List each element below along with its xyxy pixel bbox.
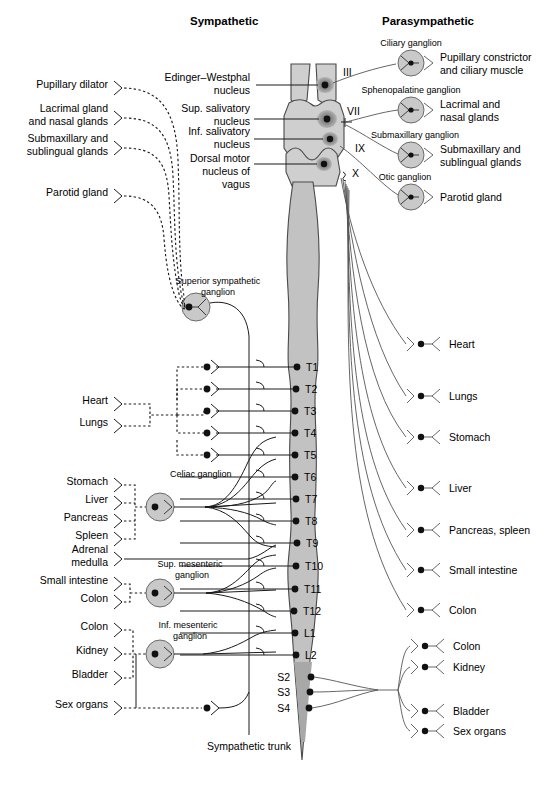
fork-sym-colon-lower	[114, 623, 122, 637]
label-edinger-westphal-2: nucleus	[214, 84, 250, 96]
dashed-infmes-colon	[124, 630, 133, 654]
label-t4: T4	[304, 427, 316, 439]
vagal-smallintestine-pre-fork	[407, 563, 414, 577]
fork-sym-colon-upper	[114, 595, 122, 609]
label-inf-mesenteric-1: Inf. mesenteric	[158, 620, 218, 630]
label-sym-submaxillary-2: sublingual glands	[27, 145, 108, 157]
celiac-ganglion-group: Stomach Liver Pancreas Spleen Celiac gan…	[64, 437, 276, 547]
adrenal-direct-fiber	[124, 545, 276, 559]
label-sympathetic-trunk: Sympathetic trunk	[207, 740, 292, 752]
sacral-band-top	[294, 662, 312, 672]
label-sym-colon-lower: Colon	[81, 620, 109, 632]
superior-sympathetic-ganglion-dot	[186, 304, 193, 311]
dashed-heart-bus	[124, 404, 177, 415]
vagal-lungs-pre-fork	[407, 389, 414, 403]
trunk-hook-t1	[256, 360, 264, 367]
trunk-hook-l2	[256, 648, 264, 655]
label-adrenal-2: medulla	[71, 556, 108, 568]
vagal-colon-post-fork	[432, 603, 440, 617]
label-submaxillary-ganglion: Submaxillary ganglion	[371, 130, 459, 140]
label-submaxillary-target-2: sublingual glands	[440, 156, 521, 168]
sphenopalatine-ganglion-dot	[408, 107, 413, 112]
label-inf-mesenteric-2: ganglion	[173, 631, 207, 641]
sacral-nerve-s4	[312, 690, 378, 708]
dashed-bus-to-t3	[177, 411, 204, 415]
dorsal-motor-vagus-dot	[321, 161, 327, 167]
diagram-canvas: Sympathetic Parasympathetic Ed	[0, 0, 548, 792]
vagal-target-heart: Heart	[407, 337, 475, 351]
sacral-dot-s4	[306, 705, 313, 712]
parasympathetic-vagal-targets-group: Heart Lungs Stomach Liver	[407, 337, 530, 617]
vagus-fiber-lungs	[343, 180, 406, 396]
dashed-bus-to-t4	[177, 415, 204, 433]
label-cn10: X	[352, 167, 359, 179]
submaxillary-ganglion-dot	[408, 152, 413, 157]
fork-sym-spleen	[114, 532, 122, 546]
vagal-liver-pre-fork	[407, 481, 414, 495]
sacral-target-sex-organs: Sex organs	[411, 724, 506, 738]
sym-dot-t2	[204, 386, 211, 393]
segment-dot-t12	[291, 608, 298, 615]
vagal-target-lungs: Lungs	[407, 389, 478, 403]
vagus-nerve-fibers	[341, 178, 406, 610]
sacral-sexorgans-dot	[422, 728, 428, 734]
label-sym-heart: Heart	[82, 394, 108, 406]
segment-dot-t11	[292, 586, 299, 593]
label-sym-small-intestine: Small intestine	[40, 574, 108, 586]
label-dorsal-motor-1: Dorsal motor	[190, 152, 251, 164]
sacral-nerve-s3	[313, 690, 378, 692]
segment-dot-t5	[292, 452, 299, 459]
label-vagal-colon: Colon	[449, 604, 477, 616]
label-sym-pupillary-dilator: Pupillary dilator	[36, 78, 108, 90]
sym-dot-t4	[204, 430, 211, 437]
label-t3: T3	[304, 405, 316, 417]
sym-dot-t1	[204, 364, 211, 371]
label-t5: T5	[304, 449, 316, 461]
sex-organs-dot	[204, 705, 211, 712]
label-sym-liver: Liver	[85, 493, 108, 505]
fork-lacrimal	[114, 111, 122, 125]
vagal-target-colon: Colon	[407, 603, 477, 617]
superior-ganglion-to-trunk	[210, 302, 249, 336]
sacral-target-bladder: Bladder	[411, 704, 490, 718]
label-sacral-colon: Colon	[453, 640, 481, 652]
label-sup-salivatory-1: Sup. salivatory	[181, 102, 251, 114]
vagal-stomach-dot	[418, 434, 424, 440]
label-otic-target-1: Parotid gland	[440, 191, 502, 203]
label-l1: L1	[304, 627, 316, 639]
label-sacral-kidney: Kidney	[453, 661, 486, 673]
sacral-dot-s3	[307, 689, 314, 696]
fork-submaxillary	[114, 141, 122, 155]
label-vagal-liver: Liver	[449, 482, 472, 494]
segment-dot-t4	[292, 430, 299, 437]
label-sym-bladder: Bladder	[72, 668, 109, 680]
sacral-dot-s2	[308, 674, 315, 681]
vagal-stomach-pre-fork	[407, 430, 414, 444]
vagal-pancreas-post-fork	[432, 523, 440, 537]
celiac-fiber-from-t9	[205, 507, 276, 547]
sacral-sexorgans-post-fork	[436, 724, 444, 738]
sup-salivatory-dot	[324, 116, 331, 123]
trunk-hook-t2	[256, 382, 264, 389]
label-adrenal-1: Adrenal	[72, 543, 108, 555]
vagus-fiber-colon	[348, 190, 406, 610]
dashed-supmes-smallintestine	[124, 584, 130, 593]
trunk-hook-l1	[256, 626, 264, 633]
label-sacral-sex-organs: Sex organs	[453, 725, 506, 737]
sacral-colon-post-fork	[436, 639, 444, 653]
sacral-colon-dot	[422, 643, 428, 649]
trunk-hook-t3	[256, 404, 264, 411]
dashed-bus-to-t1	[177, 367, 204, 415]
vagal-liver-post-fork	[432, 481, 440, 495]
label-vagal-pancreas-spleen: Pancreas, spleen	[449, 524, 530, 536]
sphenopalatine-ganglion	[398, 97, 433, 123]
trunk-hook-t5	[256, 448, 264, 455]
celiac-ganglion-dot	[152, 504, 159, 511]
vagal-smallintestine-dot	[418, 567, 424, 573]
sacral-bladder-dot	[422, 708, 428, 714]
label-celiac-ganglion: Celiac ganglion	[170, 469, 232, 479]
sex-organs-postfork	[211, 701, 219, 715]
vagal-heart-post-fork	[432, 337, 440, 351]
supmes-fiber-from-t12	[206, 593, 276, 617]
label-sym-stomach: Stomach	[67, 475, 109, 487]
